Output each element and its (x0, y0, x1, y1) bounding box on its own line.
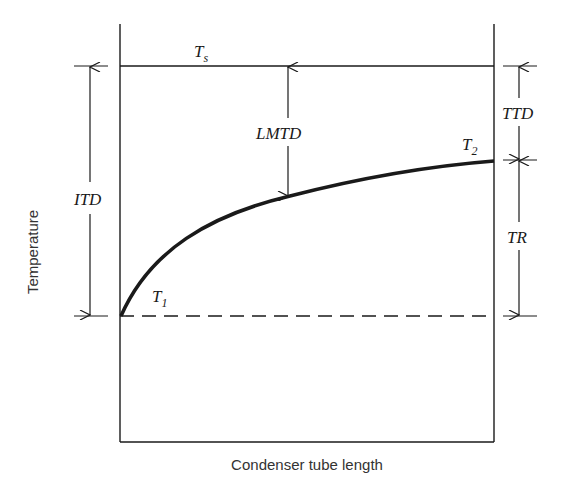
t2-label: T2 (462, 135, 477, 158)
y-axis-label: Temperature (24, 210, 41, 294)
lmtd-label: LMTD (255, 124, 302, 143)
tr-label: TR (507, 228, 527, 247)
cooling-water-curve (121, 161, 494, 316)
condenser-temperature-diagram: ITD LMTD TTD TR Ts T2 T1 Condenser tube … (0, 0, 565, 483)
t1-label: T1 (152, 287, 167, 310)
itd-label: ITD (73, 190, 102, 209)
x-axis-label: Condenser tube length (231, 456, 383, 473)
plot-frame (120, 24, 494, 442)
ttd-label: TTD (502, 104, 534, 123)
ts-label: Ts (194, 42, 208, 65)
